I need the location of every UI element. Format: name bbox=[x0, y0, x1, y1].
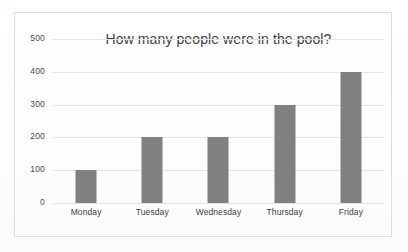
y-tick-label: 500 bbox=[15, 33, 45, 43]
x-tick-label: Monday bbox=[53, 207, 119, 217]
bar-slot bbox=[185, 39, 251, 203]
bar[interactable] bbox=[76, 170, 97, 203]
bar[interactable] bbox=[208, 137, 229, 203]
y-tick-label: 100 bbox=[15, 164, 45, 174]
x-tick-label: Wednesday bbox=[185, 207, 251, 217]
bar[interactable] bbox=[340, 72, 361, 203]
bar[interactable] bbox=[142, 137, 163, 203]
bars-layer bbox=[53, 13, 384, 238]
bar-slot bbox=[252, 39, 318, 203]
x-tick-label: Thursday bbox=[252, 207, 318, 217]
plot-area: How many people were in the pool? 010020… bbox=[15, 13, 393, 238]
bar[interactable] bbox=[274, 105, 295, 203]
y-tick-label: 200 bbox=[15, 131, 45, 141]
y-tick-label: 0 bbox=[15, 197, 45, 207]
chart-frame: How many people were in the pool? 010020… bbox=[14, 12, 392, 237]
bar-slot bbox=[119, 39, 185, 203]
bar-slot bbox=[318, 39, 384, 203]
x-tick-label: Tuesday bbox=[119, 207, 185, 217]
y-tick-label: 300 bbox=[15, 99, 45, 109]
bar-slot bbox=[53, 39, 119, 203]
y-tick-label: 400 bbox=[15, 66, 45, 76]
x-tick-label: Friday bbox=[318, 207, 384, 217]
